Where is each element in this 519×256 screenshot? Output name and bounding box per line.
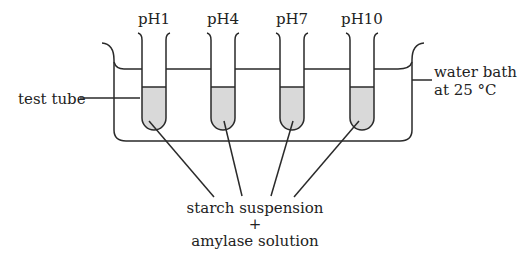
water-bath-label-line1: water bath <box>434 63 517 81</box>
water-bath-label-line2: at 25 °C <box>434 81 497 99</box>
water-level-line <box>114 62 412 69</box>
tube-label-pH1: pH1 <box>138 10 170 28</box>
contents-label-line2: amylase solution <box>191 232 319 250</box>
experiment-diagram: pH1 pH4 pH7 pH10 test tube water bath at… <box>0 0 519 256</box>
test-tube-pH4 <box>207 33 239 130</box>
test-tube-pH10 <box>346 33 378 130</box>
tube-label-pH10: pH10 <box>341 10 383 28</box>
contents-label-plus: + <box>249 215 262 233</box>
contents-leader-lines <box>149 121 359 197</box>
test-tube-pH7 <box>276 33 308 130</box>
tube-label-pH7: pH7 <box>276 10 308 28</box>
tube-label-pH4: pH4 <box>207 10 239 28</box>
test-tube-label: test tube <box>18 90 86 108</box>
test-tube-pH1 <box>138 33 170 130</box>
